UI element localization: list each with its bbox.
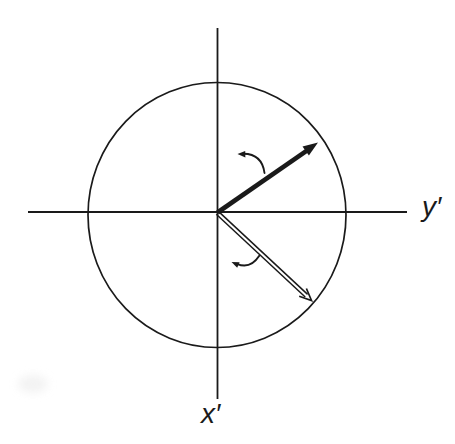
solid-vector (218, 143, 319, 213)
rotation-arrow-upper (238, 151, 265, 173)
open-vector-lower-line (216, 214, 305, 297)
solid-vector-shaft (218, 151, 307, 213)
open-vector-arrowhead-icon (299, 289, 311, 301)
y-prime-label: y′ (420, 191, 443, 222)
rotation-arrow-lower (232, 256, 260, 268)
open-vector-upper-line (219, 212, 308, 295)
rotation-arrow-lower-curve (237, 256, 260, 266)
open-vector (216, 212, 311, 301)
scan-smudge (18, 375, 48, 393)
rotation-arrow-upper-curve (244, 154, 265, 173)
rotation-arrow-upper-head-icon (238, 151, 246, 158)
rotation-arrow-lower-head-icon (232, 262, 240, 268)
rotation-diagram: y′ x′ (0, 0, 455, 444)
rotation-diagram-svg: y′ x′ (0, 0, 455, 444)
x-prime-label: x′ (199, 398, 222, 429)
